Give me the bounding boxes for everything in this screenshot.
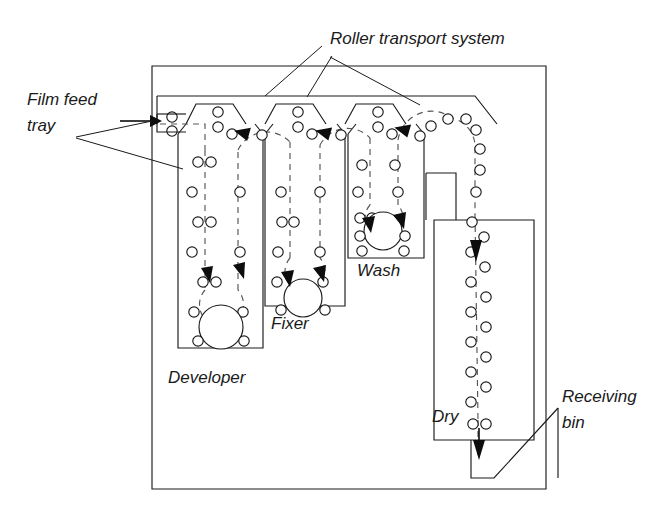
diagram-canvas: Roller transport system Film feed tray D… — [0, 0, 655, 510]
feed-arrow — [120, 115, 162, 127]
label-receiving-bin-line1: Receiving — [562, 387, 637, 406]
label-dry: Dry — [432, 407, 460, 426]
label-film-feed-tray-line1: Film feed — [27, 90, 97, 109]
label-film-feed-tray-line2: tray — [27, 116, 57, 135]
label-receiving-bin-line2: bin — [562, 413, 585, 432]
label-fixer: Fixer — [271, 314, 310, 333]
label-developer: Developer — [168, 368, 247, 387]
dryer-chamber — [426, 173, 534, 440]
leader-lines — [76, 46, 420, 169]
label-wash: Wash — [357, 261, 400, 280]
film-processor-diagram: Roller transport system Film feed tray D… — [0, 0, 655, 510]
label-roller-transport-system: Roller transport system — [330, 29, 505, 48]
